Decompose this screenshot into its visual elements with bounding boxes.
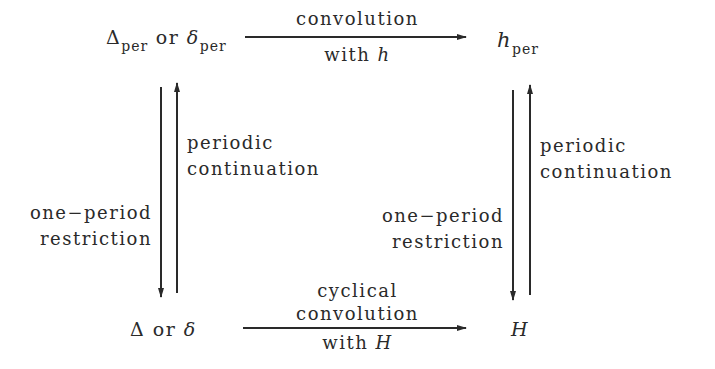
label-bottom-edge: cyclical convolution with H xyxy=(255,279,460,354)
label-right-down: one−period restriction xyxy=(360,203,504,255)
node-bottom-left: Δ or δ xyxy=(130,320,197,339)
label-left-up: periodic continuation xyxy=(187,130,320,182)
node-bottom-right: H xyxy=(511,320,529,339)
node-top-left: Δper or δper xyxy=(106,28,227,47)
label-top-edge: convolution with h xyxy=(255,6,460,68)
delta-per-symbol: Δ xyxy=(106,26,121,48)
small-delta-per-symbol: δ xyxy=(187,26,200,48)
label-right-up: periodic continuation xyxy=(540,133,673,185)
label-left-down: one−period restriction xyxy=(10,200,152,252)
node-top-right: hper xyxy=(497,30,539,51)
